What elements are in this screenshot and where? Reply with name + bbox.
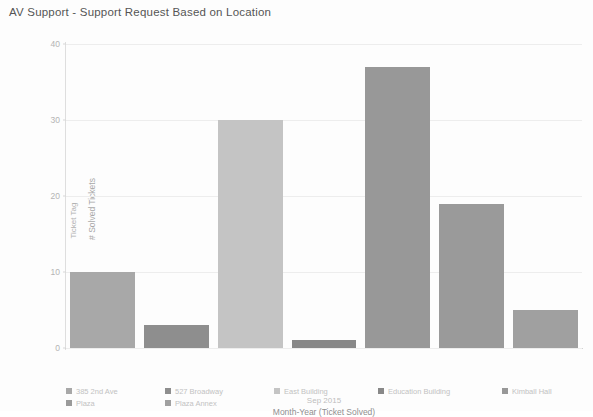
y-tick-mark bbox=[63, 120, 66, 121]
y-axis-outer-title: Ticket Tag bbox=[69, 181, 78, 261]
legend-label: 385 2nd Ave bbox=[76, 387, 118, 396]
bar bbox=[292, 340, 357, 348]
legend-label: Education Building bbox=[388, 387, 450, 396]
legend-label: Plaza bbox=[76, 399, 95, 408]
gridline bbox=[66, 272, 582, 273]
y-tick-mark bbox=[63, 44, 66, 45]
bar bbox=[439, 204, 504, 348]
y-axis-title: # Solved Tickets bbox=[87, 159, 97, 259]
y-tick-label: 40 bbox=[51, 39, 60, 49]
y-tick-mark bbox=[63, 196, 66, 197]
y-tick-label: 0 bbox=[55, 343, 60, 353]
legend-swatch bbox=[165, 400, 171, 406]
y-tick-mark bbox=[63, 348, 66, 349]
y-tick-label: 20 bbox=[51, 191, 60, 201]
gridline bbox=[66, 196, 582, 197]
bar bbox=[218, 120, 283, 348]
legend-item[interactable]: 385 2nd Ave bbox=[66, 385, 161, 397]
plot-area: Ticket Tag # Solved Tickets 010203040 Se… bbox=[66, 44, 582, 348]
legend-item[interactable]: East Building bbox=[274, 385, 374, 397]
legend-swatch bbox=[66, 388, 72, 394]
legend-item[interactable]: Education Building bbox=[378, 385, 498, 397]
y-tick-label: 30 bbox=[51, 115, 60, 125]
legend-label: Kimball Hall bbox=[512, 387, 552, 396]
gridline bbox=[66, 44, 582, 45]
legend-swatch bbox=[165, 388, 171, 394]
bar bbox=[144, 325, 209, 348]
legend-item[interactable]: 527 Broadway bbox=[165, 385, 270, 397]
y-tick-mark bbox=[63, 272, 66, 273]
bar bbox=[365, 67, 430, 348]
bar bbox=[513, 310, 578, 348]
legend-label: Plaza Annex bbox=[175, 399, 217, 408]
legend-item[interactable]: Plaza bbox=[66, 397, 161, 409]
legend-swatch bbox=[502, 388, 508, 394]
chart-legend: 385 2nd Ave527 BroadwayEast BuildingEduc… bbox=[66, 385, 586, 409]
y-tick-label: 10 bbox=[51, 267, 60, 277]
legend-swatch bbox=[378, 388, 384, 394]
legend-label: East Building bbox=[284, 387, 328, 396]
chart-title: AV Support - Support Request Based on Lo… bbox=[9, 6, 271, 18]
legend-item[interactable]: Plaza Annex bbox=[165, 397, 270, 409]
bar bbox=[70, 272, 135, 348]
legend-label: 527 Broadway bbox=[175, 387, 223, 396]
gridline bbox=[66, 348, 582, 349]
legend-swatch bbox=[66, 400, 72, 406]
legend-swatch bbox=[274, 388, 280, 394]
legend-item[interactable]: Kimball Hall bbox=[502, 385, 582, 397]
gridline bbox=[66, 120, 582, 121]
